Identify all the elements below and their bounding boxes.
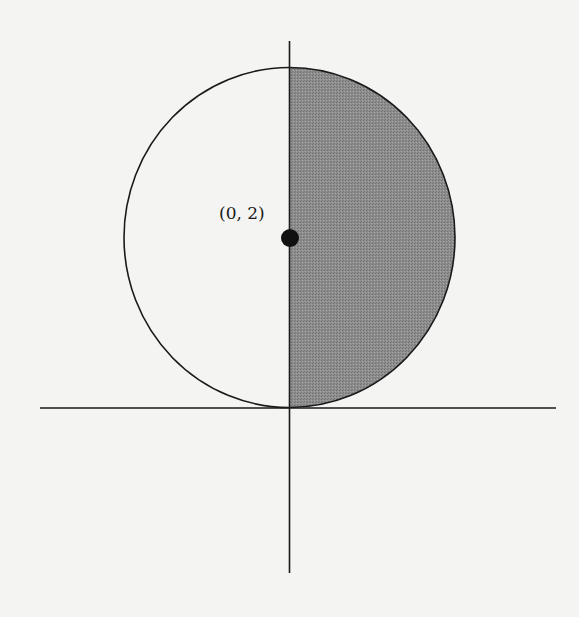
center-point bbox=[281, 229, 299, 247]
diagram-canvas: (0, 2) bbox=[0, 0, 579, 617]
shaded-right-half bbox=[290, 68, 456, 408]
center-point-label: (0, 2) bbox=[219, 203, 265, 223]
